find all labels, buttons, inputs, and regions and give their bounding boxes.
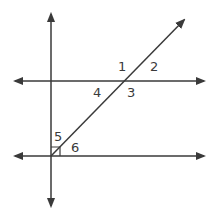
angle-label-6: 6	[71, 140, 79, 155]
angle-diagram: 1 2 3 4 5 6	[0, 0, 216, 217]
angle-label-4: 4	[93, 85, 101, 100]
diagonal-transversal	[51, 20, 184, 156]
angle-label-2: 2	[150, 59, 158, 74]
angle-label-5: 5	[54, 129, 62, 144]
angle-label-3: 3	[127, 85, 135, 100]
angle-label-1: 1	[118, 59, 126, 74]
